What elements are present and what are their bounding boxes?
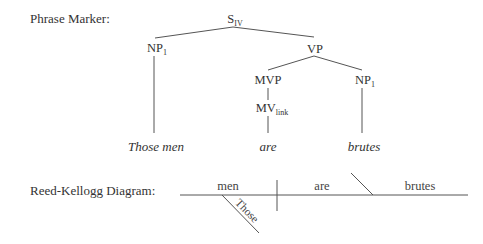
edge-s-vp: [233, 27, 314, 37]
node-np-subject: NP1: [147, 42, 167, 57]
word-complement: brutes: [348, 140, 381, 153]
word-subject: Those men: [128, 140, 184, 153]
node-s-base: S: [227, 12, 234, 26]
node-mvp-base: MVP: [254, 73, 281, 87]
phrase-marker-label: Phrase Marker:: [30, 11, 110, 27]
node-np2-base: NP: [355, 73, 371, 87]
reed-kellogg-label: Reed-Kellogg Diagram:: [30, 183, 155, 199]
word-verb: are: [260, 140, 277, 153]
node-mv-sub: link: [276, 108, 288, 117]
node-np-base: NP: [147, 41, 163, 55]
rk-complement-slash: [351, 173, 373, 195]
node-s-iv: SIV: [227, 13, 242, 28]
node-np-sub: 1: [163, 48, 167, 57]
node-vp-base: VP: [307, 42, 323, 56]
rk-complement: brutes: [405, 180, 436, 193]
node-np-complement: NP1: [355, 74, 375, 89]
edge-vp-mvp: [268, 56, 314, 70]
rk-verb: are: [314, 180, 329, 193]
rk-subject: men: [217, 180, 239, 193]
edge-vp-np: [314, 56, 362, 70]
node-mv-link: MVlink: [256, 102, 289, 117]
node-s-sub: IV: [234, 19, 242, 28]
edge-s-np: [155, 27, 233, 38]
node-mvp: MVP: [254, 74, 281, 87]
node-mv-base: MV: [256, 101, 276, 115]
node-np2-sub: 1: [371, 80, 375, 89]
node-vp: VP: [307, 43, 323, 56]
